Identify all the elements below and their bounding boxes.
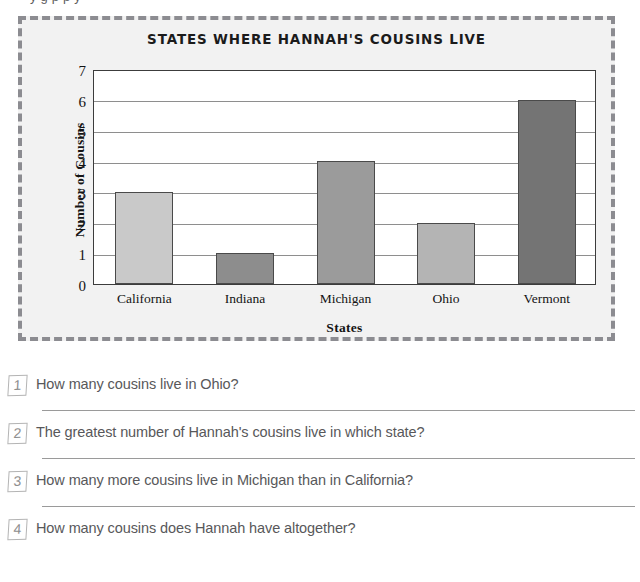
questions-list: 1How many cousins live in Ohio?2The grea… xyxy=(0,372,640,564)
x-axis-tick-label: California xyxy=(117,291,172,307)
question-text: The greatest number of Hannah's cousins … xyxy=(36,424,424,440)
question-number-box: 3 xyxy=(7,471,27,492)
y-axis-tick-label: 2 xyxy=(79,217,87,232)
x-axis-tick-label: Ohio xyxy=(433,291,460,307)
y-axis-tick-label: 5 xyxy=(79,125,87,140)
x-axis-tick-label: Indiana xyxy=(225,291,265,307)
question-number-box: 4 xyxy=(7,519,27,540)
y-axis-tick-label: 7 xyxy=(79,64,87,79)
question-text: How many cousins does Hannah have altoge… xyxy=(36,520,356,536)
question-text: How many more cousins live in Michigan t… xyxy=(36,472,413,488)
question-row: 2The greatest number of Hannah's cousins… xyxy=(0,420,640,468)
y-axis-tick-label: 1 xyxy=(79,248,87,263)
bar-california xyxy=(115,192,173,284)
y-axis-tick-label: 0 xyxy=(79,279,87,294)
question-number-box: 1 xyxy=(7,375,27,396)
answer-line[interactable] xyxy=(42,410,635,411)
x-axis-tick-label: Michigan xyxy=(320,291,372,307)
question-row: 4How many cousins does Hannah have altog… xyxy=(0,516,640,564)
question-row: 3How many more cousins live in Michigan … xyxy=(0,468,640,516)
bar-vermont xyxy=(518,100,576,284)
y-axis-tick-label: 4 xyxy=(79,156,87,171)
bar-ohio xyxy=(417,223,475,284)
answer-line[interactable] xyxy=(42,506,635,507)
answer-line[interactable] xyxy=(42,458,635,459)
bar-michigan xyxy=(317,161,375,284)
cut-off-text: y g p p y xyxy=(30,0,81,4)
x-axis-tick-label: Vermont xyxy=(523,291,570,307)
question-row: 1How many cousins live in Ohio? xyxy=(0,372,640,420)
y-axis-tick-label: 3 xyxy=(79,186,87,201)
cut-off-text-strip: y g p p y xyxy=(0,0,640,14)
question-text: How many cousins live in Ohio? xyxy=(36,376,239,392)
bar-indiana xyxy=(216,253,274,284)
chart-title: STATES WHERE HANNAH'S COUSINS LIVE xyxy=(43,31,591,47)
question-number-box: 2 xyxy=(7,423,27,444)
x-axis-title: States xyxy=(93,320,596,336)
chart-frame: STATES WHERE HANNAH'S COUSINS LIVE Numbe… xyxy=(18,16,615,341)
y-axis-tick-label: 6 xyxy=(79,94,87,109)
chart-panel: STATES WHERE HANNAH'S COUSINS LIVE Numbe… xyxy=(22,20,611,337)
plot-area: 01234567CaliforniaIndianaMichiganOhioVer… xyxy=(93,70,596,285)
